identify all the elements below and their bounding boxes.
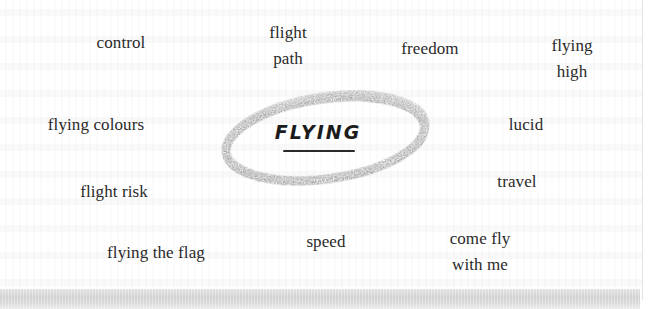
word-line: path (269, 46, 306, 72)
word-flying-colours: flying colours (48, 112, 144, 138)
word-line: flying colours (48, 115, 144, 134)
word-line: with me (450, 252, 511, 278)
word-line: come fly (450, 226, 511, 252)
word-travel: travel (497, 169, 536, 195)
word-freedom: freedom (401, 36, 458, 62)
central-topic: FLYING (275, 121, 361, 143)
word-line: travel (497, 172, 536, 191)
word-line: flying the flag (107, 243, 205, 262)
word-speed: speed (306, 229, 345, 255)
page-bottom-shadow (0, 289, 640, 309)
page-edge (642, 0, 643, 300)
word-flight-risk: flight risk (80, 179, 148, 205)
word-flight-path: flight path (269, 20, 306, 72)
word-control: control (97, 30, 146, 56)
word-line: freedom (401, 39, 458, 58)
word-come-fly-with-me: come fly with me (450, 226, 511, 278)
word-line: speed (306, 232, 345, 251)
word-flying-the-flag: flying the flag (107, 240, 205, 266)
word-line: lucid (509, 115, 544, 134)
word-line: flight risk (80, 182, 148, 201)
word-line: flight (269, 20, 306, 46)
word-line: flying (551, 33, 592, 59)
word-lucid: lucid (509, 112, 544, 138)
book-page: control flight path freedom flying high … (0, 0, 652, 309)
central-topic-underline (283, 150, 355, 152)
word-flying-high: flying high (551, 33, 592, 85)
word-line: control (97, 33, 146, 52)
word-line: high (551, 59, 592, 85)
